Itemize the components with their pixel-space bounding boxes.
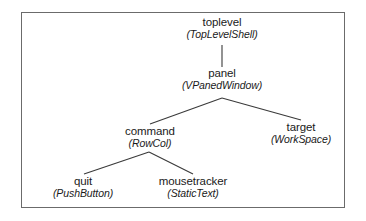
node-toplevel: toplevel (TopLevelShell) (186, 17, 257, 39)
node-command-name: command (125, 126, 175, 138)
node-mousetracker-class: (StaticText) (159, 188, 227, 199)
node-mousetracker-name: mousetracker (159, 176, 227, 188)
node-quit-name: quit (53, 176, 113, 188)
node-mousetracker: mousetracker (StaticText) (159, 176, 227, 198)
node-toplevel-class: (TopLevelShell) (186, 29, 257, 40)
node-target: target (WorkSpace) (271, 122, 331, 144)
node-quit: quit (PushButton) (53, 176, 113, 198)
node-panel: panel (VPanedWindow) (182, 68, 262, 90)
node-target-class: (WorkSpace) (271, 134, 331, 145)
node-command-class: (RowCol) (125, 138, 175, 149)
node-quit-class: (PushButton) (53, 188, 113, 199)
node-target-name: target (271, 122, 331, 134)
diagram-canvas: toplevel (TopLevelShell) panel (VPanedWi… (0, 0, 366, 221)
node-panel-class: (VPanedWindow) (182, 80, 262, 91)
node-command: command (RowCol) (125, 126, 175, 148)
node-toplevel-name: toplevel (186, 17, 257, 29)
node-panel-name: panel (182, 68, 262, 80)
